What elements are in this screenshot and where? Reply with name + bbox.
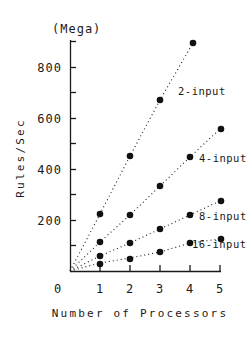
x-tick-label: 5	[216, 282, 224, 296]
marker-8-input	[157, 226, 164, 233]
series-label-16-input: 16-input	[192, 238, 246, 250]
marker-16-input	[157, 249, 164, 256]
x-tick-label: 1	[96, 282, 104, 296]
marker-4-input	[97, 239, 104, 246]
marker-2-input	[157, 97, 164, 104]
x-tick-label: 0	[54, 282, 62, 296]
marker-16-input	[97, 261, 104, 268]
y-tick-label: 200	[37, 214, 62, 228]
y-tick-label: 600	[37, 112, 62, 126]
x-tick-label: 2	[126, 282, 134, 296]
series-label-2-input: 2-input	[178, 85, 226, 97]
x-tick-label: 3	[156, 282, 164, 296]
y-tick-label: 800	[37, 61, 62, 75]
x-axis-title: Number of Processors	[52, 307, 228, 320]
marker-4-input	[157, 183, 164, 190]
series-lines	[70, 43, 220, 271]
y-unit-label: (Mega)	[52, 22, 101, 36]
y-tick-label: 400	[37, 163, 62, 177]
series-label-4-input: 4-input	[199, 152, 246, 164]
series-label-8-input: 8-input	[199, 210, 246, 222]
x-tick-label: 4	[186, 282, 194, 296]
marker-8-input	[218, 198, 225, 205]
marker-8-input	[127, 240, 134, 247]
chart: 200 400 600 800 (Mega) 0 1 2 3 4 5 Numbe…	[0, 0, 246, 338]
marker-4-input	[187, 154, 194, 161]
series-line-8-input	[70, 201, 220, 271]
marker-8-input	[187, 212, 194, 219]
marker-2-input	[190, 40, 197, 47]
marker-2-input	[127, 153, 134, 160]
marker-2-input	[97, 211, 104, 218]
marker-8-input	[97, 253, 104, 260]
y-axis-title: Rules/Sec	[14, 118, 27, 197]
marker-16-input	[127, 256, 134, 263]
marker-4-input	[218, 126, 225, 133]
marker-4-input	[127, 212, 134, 219]
